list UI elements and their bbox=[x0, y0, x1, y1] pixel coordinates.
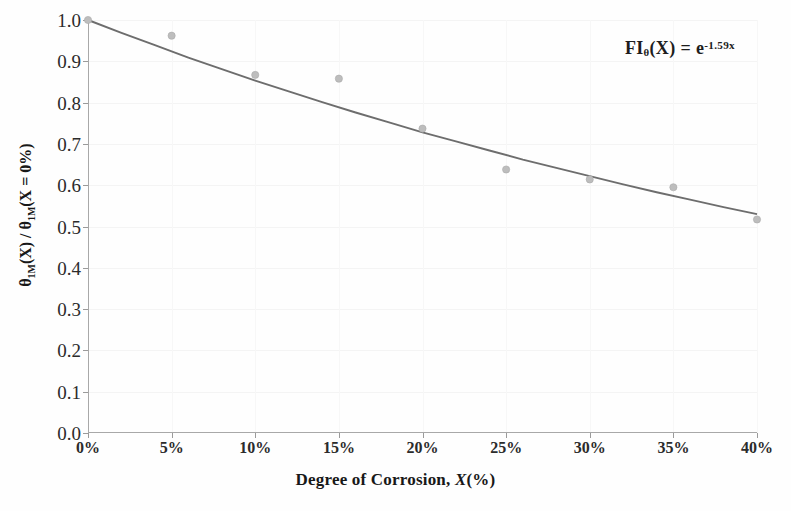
x-tick-label: 15% bbox=[323, 440, 355, 456]
data-point-marker bbox=[84, 16, 91, 23]
plot-area bbox=[88, 20, 757, 433]
data-point-marker bbox=[586, 176, 593, 183]
x-tick-label: 10% bbox=[239, 440, 271, 456]
x-axis-tick bbox=[172, 433, 173, 438]
gridline-vertical bbox=[757, 20, 758, 433]
x-tick-label: 40% bbox=[741, 440, 773, 456]
fit-equation-annotation: FIθ(X)=e-1.59x bbox=[625, 38, 735, 59]
y-tick-label: 0.6 bbox=[57, 176, 81, 195]
x-tick-label: 30% bbox=[574, 440, 606, 456]
x-axis-title-tail: (%) bbox=[466, 470, 495, 489]
y-axis-title-denominator-arg: (X = 0%) bbox=[17, 143, 34, 206]
y-tick-label: 1.0 bbox=[57, 11, 81, 30]
x-axis-tick bbox=[423, 433, 424, 438]
x-axis-tick bbox=[506, 433, 507, 438]
y-tick-label: 0.4 bbox=[57, 259, 81, 278]
y-axis-title-numerator-subscript: 1M bbox=[26, 264, 37, 278]
y-axis-title-numerator-arg: (X) bbox=[17, 242, 34, 264]
y-tick-label: 0.1 bbox=[57, 383, 81, 402]
data-point-marker bbox=[335, 75, 342, 82]
data-point-marker bbox=[670, 184, 677, 191]
data-series-layer bbox=[88, 20, 757, 433]
x-tick-label: 35% bbox=[657, 440, 689, 456]
data-point-marker bbox=[753, 216, 760, 223]
chart-container: 0.00.10.20.30.40.50.60.70.80.91.0 θ1M(X)… bbox=[0, 0, 791, 511]
x-axis-tick bbox=[255, 433, 256, 438]
equation-lhs-main: FI bbox=[625, 38, 644, 58]
x-tick-label: 25% bbox=[490, 440, 522, 456]
x-tick-label: 0% bbox=[76, 440, 100, 456]
x-axis-tick bbox=[339, 433, 340, 438]
y-axis-title-slash: / bbox=[17, 229, 34, 241]
y-tick-label: 0.5 bbox=[57, 218, 81, 237]
y-tick-label: 0.9 bbox=[57, 52, 81, 71]
y-axis-title-denominator-theta: θ bbox=[17, 221, 34, 229]
data-point-marker bbox=[419, 125, 426, 132]
equation-lhs-arg: (X) bbox=[650, 38, 676, 58]
x-axis-title-main: Degree of Corrosion, bbox=[296, 470, 455, 489]
y-tick-label: 0.2 bbox=[57, 341, 81, 360]
y-axis-title-denominator-subscript: 1M bbox=[26, 207, 37, 221]
x-axis-tick bbox=[88, 433, 89, 438]
x-axis-title-variable: X bbox=[455, 470, 467, 489]
y-axis-tick-labels: 0.00.10.20.30.40.50.60.70.80.91.0 bbox=[33, 20, 81, 433]
x-tick-label: 5% bbox=[160, 440, 184, 456]
equation-rhs-exponent: -1.59x bbox=[704, 39, 735, 51]
x-axis-tick bbox=[757, 433, 758, 438]
y-axis-title-numerator-theta: θ bbox=[17, 278, 34, 286]
data-point-marker bbox=[168, 32, 175, 39]
x-axis-tick-labels: 0%5%10%15%20%25%30%35%40% bbox=[88, 440, 757, 464]
y-axis-title: θ1M(X) / θ1M(X = 0%) bbox=[17, 35, 37, 395]
data-point-marker bbox=[503, 166, 510, 173]
y-tick-label: 0.8 bbox=[57, 94, 81, 113]
x-tick-label: 20% bbox=[407, 440, 439, 456]
data-point-marker bbox=[252, 71, 259, 78]
x-axis-title: Degree of Corrosion, X(%) bbox=[0, 470, 791, 490]
y-tick-label: 0.7 bbox=[57, 135, 81, 154]
y-tick-label: 0.3 bbox=[57, 300, 81, 319]
equation-equals-sign: = bbox=[675, 38, 696, 58]
x-axis-tick bbox=[673, 433, 674, 438]
x-axis-tick bbox=[590, 433, 591, 438]
